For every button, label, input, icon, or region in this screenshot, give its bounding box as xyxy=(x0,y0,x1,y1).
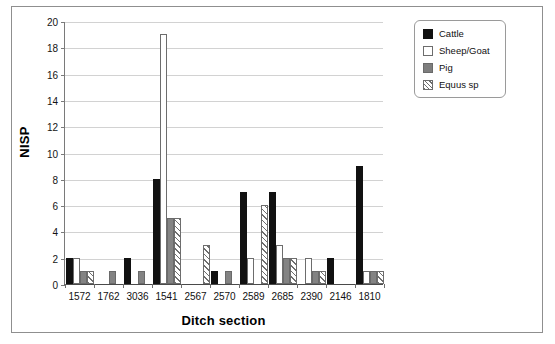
bar-group xyxy=(181,22,210,284)
legend-label: Pig xyxy=(439,62,453,73)
legend-label: Cattle xyxy=(439,28,464,39)
bar-equus xyxy=(377,271,384,284)
x-tick-mark xyxy=(355,284,356,288)
white-square-icon xyxy=(423,46,433,56)
bar-pig xyxy=(225,271,232,284)
x-tick-label: 1541 xyxy=(155,291,177,302)
bar-equus xyxy=(203,245,210,284)
bar-cattle xyxy=(66,258,73,284)
y-tick-label: 0 xyxy=(52,280,58,291)
bar-group xyxy=(239,22,268,284)
y-axis-title: NISP xyxy=(17,126,32,158)
bar-sheep xyxy=(276,245,283,284)
y-tick-label: 18 xyxy=(47,43,58,54)
y-tick-label: 12 xyxy=(47,122,58,133)
bar-equus xyxy=(319,271,326,284)
y-tick-label: 16 xyxy=(47,69,58,80)
x-tick-mark xyxy=(384,284,385,288)
black-square-icon xyxy=(423,29,433,39)
bar-pig xyxy=(312,271,319,284)
bar-pig xyxy=(109,271,116,284)
bar-group xyxy=(152,22,181,284)
bar-pig xyxy=(138,271,145,284)
bar-group xyxy=(210,22,239,284)
bar-pig xyxy=(167,218,174,284)
x-tick-label: 2390 xyxy=(300,291,322,302)
bar-cattle xyxy=(356,166,363,284)
bar-cattle xyxy=(327,258,334,284)
x-tick-label: 2567 xyxy=(184,291,206,302)
bar-sheep xyxy=(160,34,167,284)
gray-square-icon xyxy=(423,63,433,73)
x-tick-label: 1762 xyxy=(97,291,119,302)
bar-group xyxy=(94,22,123,284)
y-tick-label: 6 xyxy=(52,201,58,212)
x-tick-mark xyxy=(210,284,211,288)
legend-item: Sheep/Goat xyxy=(423,45,497,56)
y-tick-label: 14 xyxy=(47,95,58,106)
x-tick-mark xyxy=(181,284,182,288)
legend-label: Sheep/Goat xyxy=(439,45,490,56)
x-tick-mark xyxy=(65,284,66,288)
bar-cattle xyxy=(211,271,218,284)
bar-equus xyxy=(174,218,181,284)
x-tick-mark xyxy=(152,284,153,288)
x-tick-label: 2685 xyxy=(271,291,293,302)
bar-cattle xyxy=(124,258,131,284)
y-tick-label: 10 xyxy=(47,148,58,159)
x-axis-title: Ditch section xyxy=(64,313,383,328)
x-tick-label: 3036 xyxy=(126,291,148,302)
x-tick-mark xyxy=(123,284,124,288)
x-tick-label: 2589 xyxy=(242,291,264,302)
legend-item: Cattle xyxy=(423,28,497,39)
bar-group xyxy=(297,22,326,284)
bar-sheep xyxy=(305,258,312,284)
bar-group xyxy=(123,22,152,284)
x-tick-label: 1572 xyxy=(68,291,90,302)
y-tick-label: 20 xyxy=(47,17,58,28)
bar-cattle xyxy=(153,179,160,284)
bar-group xyxy=(326,22,355,284)
bar-cattle xyxy=(240,192,247,284)
legend-item: Equus sp xyxy=(423,79,497,90)
x-tick-mark xyxy=(297,284,298,288)
chart-legend: CattleSheep/GoatPigEquus sp xyxy=(414,20,506,98)
bar-pig xyxy=(80,271,87,284)
bar-sheep xyxy=(247,258,254,284)
bar-sheep xyxy=(73,258,80,284)
x-tick-label: 1810 xyxy=(358,291,380,302)
y-tick-label: 8 xyxy=(52,174,58,185)
x-tick-label: 2146 xyxy=(329,291,351,302)
bar-equus xyxy=(87,271,94,284)
x-tick-mark xyxy=(268,284,269,288)
hatched-square-icon xyxy=(423,80,433,90)
y-tick-label: 2 xyxy=(52,253,58,264)
bar-equus xyxy=(290,258,297,284)
bar-equus xyxy=(261,205,268,284)
chart-figure: NISP Ditch section 02468101214161820 157… xyxy=(0,0,555,344)
bar-group xyxy=(65,22,94,284)
bar-group xyxy=(355,22,384,284)
bar-cattle xyxy=(269,192,276,284)
bar-pig xyxy=(370,271,377,284)
x-tick-mark xyxy=(94,284,95,288)
x-tick-mark xyxy=(239,284,240,288)
legend-label: Equus sp xyxy=(439,79,479,90)
x-tick-mark xyxy=(326,284,327,288)
bar-sheep xyxy=(363,271,370,284)
plot-area: 02468101214161820 1572176230361541256725… xyxy=(64,22,383,285)
legend-item: Pig xyxy=(423,62,497,73)
bar-group xyxy=(268,22,297,284)
y-tick-label: 4 xyxy=(52,227,58,238)
bar-pig xyxy=(283,258,290,284)
x-tick-label: 2570 xyxy=(213,291,235,302)
